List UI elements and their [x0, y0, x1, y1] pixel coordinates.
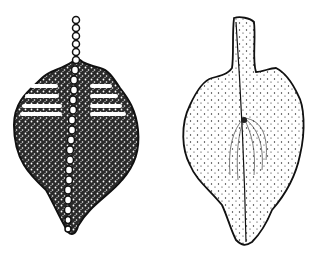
ridge-node	[241, 117, 247, 123]
specimen-illustration	[0, 0, 320, 262]
left-specimen	[14, 17, 138, 235]
right-specimen	[183, 17, 303, 245]
figure-canvas	[0, 0, 320, 262]
